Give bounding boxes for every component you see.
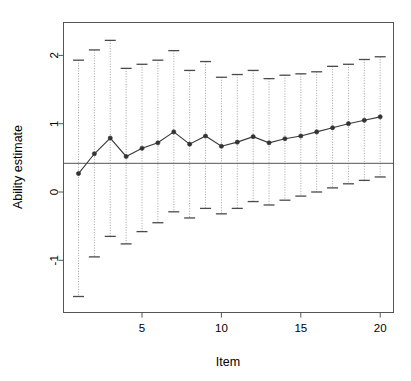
x-axis-title: Item bbox=[216, 355, 240, 369]
data-point-marker bbox=[203, 134, 207, 138]
y-tick-label: 0 bbox=[48, 189, 60, 195]
data-point-marker bbox=[330, 126, 334, 130]
data-point-marker bbox=[219, 144, 223, 148]
data-point-marker bbox=[346, 122, 350, 126]
data-point-marker bbox=[124, 154, 128, 158]
data-point-marker bbox=[235, 140, 239, 144]
data-point-marker bbox=[76, 171, 80, 175]
ability-estimate-errorbar-chart: -1012 5101520 Ability estimate Item bbox=[0, 0, 411, 381]
data-point-marker bbox=[188, 142, 192, 146]
data-point-marker bbox=[362, 118, 366, 122]
x-tick-label: 5 bbox=[139, 322, 145, 334]
x-tick-label: 15 bbox=[294, 322, 307, 334]
data-point-marker bbox=[378, 115, 382, 119]
data-point-marker bbox=[140, 146, 144, 150]
data-point-marker bbox=[108, 136, 112, 140]
y-axis-title: Ability estimate bbox=[11, 125, 25, 209]
x-tick-label: 10 bbox=[215, 322, 228, 334]
data-point-marker bbox=[299, 134, 303, 138]
data-point-marker bbox=[172, 130, 176, 134]
y-tick-label: 2 bbox=[48, 52, 60, 58]
data-point-marker bbox=[92, 152, 96, 156]
y-tick-label: -1 bbox=[48, 255, 60, 265]
y-tick-label: 1 bbox=[48, 120, 60, 126]
chart-background bbox=[0, 0, 411, 381]
data-point-marker bbox=[156, 141, 160, 145]
data-point-marker bbox=[283, 137, 287, 141]
data-point-marker bbox=[251, 135, 255, 139]
data-point-marker bbox=[267, 141, 271, 145]
x-tick-label: 20 bbox=[374, 322, 387, 334]
data-point-marker bbox=[315, 130, 319, 134]
chart-figure: -1012 5101520 Ability estimate Item bbox=[0, 0, 411, 381]
